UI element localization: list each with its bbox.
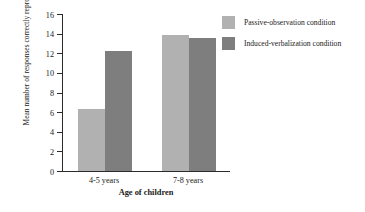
bar <box>78 109 105 171</box>
legend-label: Passive-observation condition <box>244 18 335 27</box>
legend-item: Passive-observation condition <box>222 12 341 33</box>
x-axis-tick-label: 4-5 years <box>57 176 151 185</box>
y-axis-tick-label: 2 <box>50 147 54 156</box>
bar <box>162 35 189 171</box>
bar-group <box>78 14 132 171</box>
y-axis-tick: 16 <box>57 14 62 15</box>
x-axis-title: Age of children <box>62 188 230 197</box>
y-axis-tick: 6 <box>57 112 62 113</box>
bar <box>189 38 216 171</box>
legend-swatch <box>222 37 235 50</box>
y-axis-tick-label: 0 <box>50 167 54 176</box>
y-axis-tick: 0 <box>57 171 62 172</box>
y-axis-tick-label: 8 <box>50 89 54 98</box>
y-axis-tick-label: 4 <box>50 128 54 137</box>
y-axis-tick-label: 6 <box>50 108 54 117</box>
bar <box>105 51 132 171</box>
x-axis-tick-label: 7-8 years <box>141 176 235 185</box>
x-axis-line <box>62 171 230 172</box>
y-axis-tick: 14 <box>57 34 62 35</box>
bar-group <box>162 14 216 171</box>
y-axis-tick-label: 16 <box>46 10 54 19</box>
legend-label: Induced-verbalization condition <box>244 39 341 48</box>
y-axis-tick-label: 14 <box>46 30 54 39</box>
y-axis-tick: 12 <box>57 53 62 54</box>
legend-swatch <box>222 16 235 29</box>
y-axis-tick-label: 12 <box>46 49 54 58</box>
bar-series-container <box>63 14 230 171</box>
plot-area: 1614121086420 4-5 years7-8 years <box>62 14 230 172</box>
y-axis-tick: 4 <box>57 132 62 133</box>
y-axis-tick: 2 <box>57 151 62 152</box>
legend-item: Induced-verbalization condition <box>222 33 341 54</box>
y-axis-tick-label: 10 <box>46 69 54 78</box>
y-axis-title: Mean number of responses correctly repro… <box>22 0 32 128</box>
y-axis-tick: 8 <box>57 93 62 94</box>
y-axis-tick: 10 <box>57 73 62 74</box>
bar-chart-figure: Mean number of responses correctly repro… <box>0 0 365 212</box>
chart-legend: Passive-observation conditionInduced-ver… <box>222 12 341 54</box>
